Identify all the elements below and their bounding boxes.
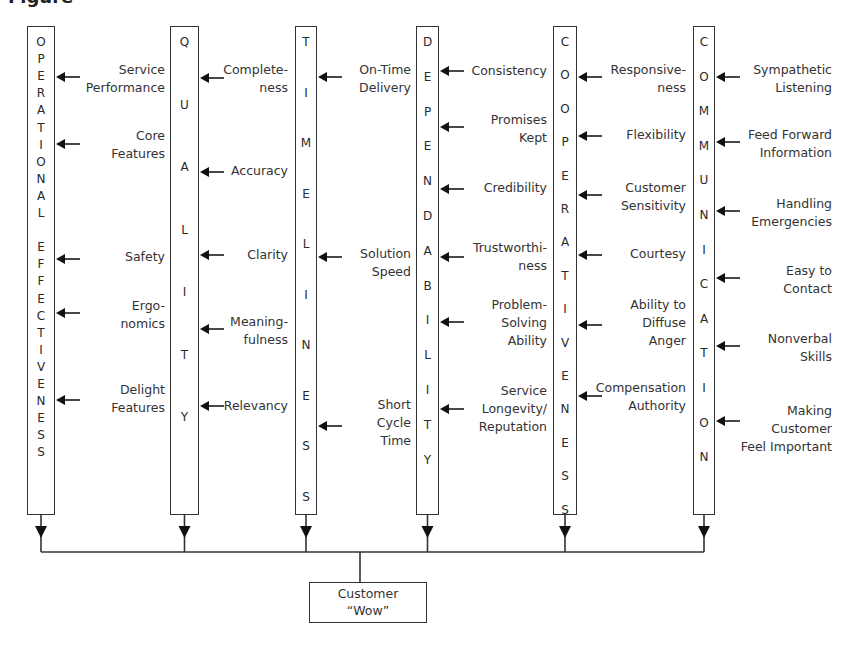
column-title-letter: O: [554, 68, 576, 82]
column-title-letter: R: [554, 202, 576, 216]
factor-label: Ergo- nomics: [120, 297, 165, 333]
column-title-letter: E: [28, 411, 54, 425]
column-title-letter: I: [694, 381, 714, 395]
column-title-letter: E: [554, 169, 576, 183]
column-title-letter: C: [694, 277, 714, 291]
column-box-operational-effectiveness: OPERATIONALEFFECTIVENESS: [27, 26, 55, 515]
column-title-letter: D: [417, 35, 438, 49]
column-title-letter: P: [28, 52, 54, 66]
column-title-letter: I: [694, 243, 714, 257]
factor-label: Courtesy: [630, 245, 686, 263]
column-title-letter: I: [417, 313, 438, 327]
column-title-letter: P: [417, 105, 438, 119]
factor-label: Accuracy: [231, 162, 288, 180]
left-arrow-icon: [578, 131, 587, 141]
column-title-letter: M: [694, 104, 714, 118]
factor-label: Easy to Contact: [783, 262, 832, 298]
left-arrow-icon: [716, 206, 725, 216]
column-title-letter: E: [28, 240, 54, 254]
column-title-letter: N: [28, 394, 54, 408]
factor-label: Ability to Diffuse Anger: [630, 296, 686, 350]
column-title-letter: I: [417, 383, 438, 397]
left-arrow-icon: [200, 250, 209, 260]
factor-label: Responsive- ness: [611, 61, 686, 97]
column-title-letter: E: [28, 69, 54, 83]
column-title-letter: I: [554, 302, 576, 316]
left-arrow-icon: [318, 72, 327, 82]
column-title-letter: L: [171, 223, 198, 237]
column-title-letter: N: [417, 174, 438, 188]
customer-wow-line2: “Wow”: [310, 602, 426, 619]
left-arrow-icon: [200, 324, 209, 334]
column-title-letter: N: [28, 172, 54, 186]
column-title-letter: O: [694, 70, 714, 84]
column-title-letter: S: [28, 428, 54, 442]
factor-label: Clarity: [247, 246, 288, 264]
column-title-letter: A: [171, 160, 198, 174]
column-title-letter: T: [296, 35, 316, 49]
column-title-letter: B: [417, 279, 438, 293]
down-arrow-icon: [35, 526, 47, 538]
column-title-letter: T: [417, 418, 438, 432]
column-title-letter: C: [694, 35, 714, 49]
column-title-letter: S: [554, 469, 576, 483]
column-title-letter: D: [417, 209, 438, 223]
left-arrow-icon: [440, 317, 449, 327]
column-title-letter: O: [554, 102, 576, 116]
column-title-letter: S: [296, 490, 316, 504]
column-title-letter: E: [296, 187, 316, 201]
factor-label: Sympathetic Listening: [753, 61, 832, 97]
column-title-letter: L: [296, 237, 316, 251]
factor-label: Relevancy: [224, 397, 288, 415]
column-title-letter: N: [694, 450, 714, 464]
factor-label: Service Performance: [86, 61, 165, 97]
column-title-letter: E: [28, 292, 54, 306]
column-title-letter: P: [554, 135, 576, 149]
column-title-letter: E: [554, 369, 576, 383]
factor-label: Short Cycle Time: [377, 396, 411, 450]
left-arrow-icon: [56, 72, 65, 82]
left-arrow-icon: [200, 73, 209, 83]
column-title-letter: A: [554, 235, 576, 249]
left-arrow-icon: [200, 167, 209, 177]
column-title-letter: L: [417, 348, 438, 362]
factor-label: Making Customer Feel Important: [741, 402, 832, 456]
column-title-letter: T: [28, 121, 54, 135]
left-arrow-icon: [716, 137, 725, 147]
factor-label: Delight Features: [111, 381, 165, 417]
factor-label: Meaning- fulness: [230, 313, 288, 349]
left-arrow-icon: [578, 250, 587, 260]
factor-label: Nonverbal Skills: [768, 330, 832, 366]
customer-wow-box: Customer “Wow”: [309, 582, 427, 623]
left-arrow-icon: [440, 122, 449, 132]
left-arrow-icon: [716, 273, 725, 283]
column-title-letter: I: [28, 343, 54, 357]
left-arrow-icon: [578, 190, 587, 200]
column-title-letter: C: [554, 35, 576, 49]
left-arrow-icon: [440, 404, 449, 414]
column-title-letter: O: [28, 35, 54, 49]
column-title-letter: A: [694, 312, 714, 326]
column-title-letter: Y: [417, 453, 438, 467]
column-title-letter: T: [554, 269, 576, 283]
column-title-letter: M: [296, 136, 316, 150]
column-title-letter: V: [554, 336, 576, 350]
factor-label: Feed Forward Information: [748, 126, 832, 162]
column-title-letter: A: [417, 244, 438, 258]
factor-label: On-Time Delivery: [359, 61, 411, 97]
column-title-letter: E: [28, 377, 54, 391]
column-title-letter: A: [28, 189, 54, 203]
left-arrow-icon: [318, 252, 327, 262]
factor-label: Service Longevity/ Reputation: [479, 382, 547, 436]
left-arrow-icon: [200, 401, 209, 411]
left-arrow-icon: [56, 308, 65, 318]
factor-label: Flexibility: [626, 126, 686, 144]
column-title-letter: T: [171, 348, 198, 362]
factor-label: Problem- Solving Ability: [491, 296, 547, 350]
factor-label: Solution Speed: [360, 245, 411, 281]
column-box-quality: QUALITY: [170, 26, 199, 515]
column-title-letter: E: [417, 139, 438, 153]
factor-label: Handling Emergencies: [751, 195, 832, 231]
column-title-letter: E: [417, 70, 438, 84]
left-arrow-icon: [318, 421, 327, 431]
